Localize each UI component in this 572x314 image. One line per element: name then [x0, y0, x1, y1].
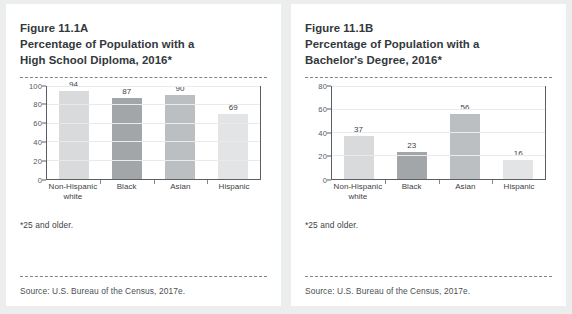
panel-a-gridline [47, 86, 260, 87]
bar-value-label: 16 [514, 149, 523, 158]
panel-b-gridline [332, 155, 545, 156]
panel-a-ytick-label: 0 [18, 175, 42, 184]
bar-value-label: 23 [407, 141, 416, 150]
panel-a-source-divider [20, 276, 267, 277]
panel-a-ytick-mark [42, 104, 46, 105]
x-axis-category-label: Black [385, 180, 439, 204]
x-axis-category-label: Non-Hispanic white [46, 180, 100, 204]
panel-a-ytick-mark [42, 142, 46, 143]
panel-a-footnote: *25 and older. [20, 220, 267, 230]
bar: 90 [165, 95, 195, 179]
panel-a-title: Figure 11.1A Percentage of Population wi… [20, 20, 267, 69]
panel-b-ytick-label: 20 [303, 152, 327, 161]
panel-b-ytick-mark [327, 179, 331, 180]
figure-page: Figure 11.1A Percentage of Population wi… [0, 0, 572, 314]
panel-a-ytick-mark [42, 123, 46, 124]
panel-b-ytick-mark [327, 109, 331, 110]
bar-value-label: 87 [122, 87, 131, 96]
panel-b-ytick-mark [327, 132, 331, 133]
panel-a-spacer [20, 230, 267, 263]
x-axis-category-label: Hispanic [207, 180, 261, 204]
panel-b-ytick-label: 0 [303, 175, 327, 184]
x-axis-category-label: Asian [439, 180, 493, 204]
panel-a-gridline [47, 160, 260, 161]
panel-a-ytick-label: 40 [18, 138, 42, 147]
panel-a-bars: 94879069 [47, 86, 260, 179]
panel-a-plot-area: 94879069 [46, 86, 261, 180]
panel-b-footnote: *25 and older. [305, 220, 552, 230]
panel-b-ytick-mark [327, 156, 331, 157]
panel-b-y-axis: 020406080 [305, 86, 327, 180]
x-axis-category-label: Asian [154, 180, 208, 204]
bar-value-label: 56 [461, 103, 470, 112]
x-axis-category-label: Hispanic [492, 180, 546, 204]
x-axis-category-label: Non-Hispanic white [331, 180, 385, 204]
panel-a-ytick-mark [42, 160, 46, 161]
panel-b-title: Figure 11.1B Percentage of Population wi… [305, 20, 552, 69]
panel-b-spacer [305, 230, 552, 263]
panel-a-plot-frame: 94879069 [46, 86, 261, 180]
panel-b-title-divider [305, 77, 552, 78]
bar: 37 [344, 136, 374, 179]
panel-b-chart: 020406080 37235616 Non-Hispanic whiteBla… [305, 86, 552, 204]
panel-b-ytick-label: 40 [303, 128, 327, 137]
bar: 16 [503, 160, 533, 179]
x-axis-category-label: Black [100, 180, 154, 204]
panel-a-source: Source: U.S. Bureau of the Census, 2017e… [20, 286, 267, 296]
panel-b-source-divider [305, 276, 552, 277]
bar-slot: 94 [47, 86, 100, 179]
panel-b-plot-area: 37235616 [331, 86, 546, 180]
panel-a-ytick-label: 20 [18, 156, 42, 165]
panel-a-ytick-mark [42, 85, 46, 86]
bar-slot: 69 [207, 86, 260, 179]
panel-a-ytick-label: 80 [18, 100, 42, 109]
panel-b-ytick-mark [327, 85, 331, 86]
bar-slot: 90 [154, 86, 207, 179]
bar: 56 [450, 114, 480, 179]
panel-a-ytick-mark [42, 179, 46, 180]
bar: 69 [218, 114, 248, 178]
panel-b-ytick-label: 80 [303, 81, 327, 90]
panel-b-gridline [332, 109, 545, 110]
panel-a-chart: 020406080100 94879069 Non-Hispanic white… [20, 86, 267, 204]
figure-panel-b: Figure 11.1B Percentage of Population wi… [291, 4, 566, 306]
panel-a-gridline [47, 104, 260, 105]
panel-b-ytick-label: 60 [303, 105, 327, 114]
panel-a-title-divider [20, 77, 267, 78]
panel-b-gridline [332, 132, 545, 133]
panel-a-ytick-label: 100 [18, 81, 42, 90]
panel-a-gridline [47, 141, 260, 142]
panel-b-x-labels: Non-Hispanic whiteBlackAsianHispanic [331, 180, 546, 204]
bar: 87 [112, 98, 142, 179]
figure-panel-a: Figure 11.1A Percentage of Population wi… [6, 4, 281, 306]
panel-a-ytick-label: 60 [18, 119, 42, 128]
panel-a-x-labels: Non-Hispanic whiteBlackAsianHispanic [46, 180, 261, 204]
panel-b-gridline [332, 86, 545, 87]
panel-a-gridline [47, 123, 260, 124]
panel-b-plot-frame: 37235616 [331, 86, 546, 180]
panel-a-y-axis: 020406080100 [20, 86, 42, 180]
panel-b-source: Source: U.S. Bureau of the Census, 2017e… [305, 286, 552, 296]
bar-slot: 87 [100, 86, 153, 179]
